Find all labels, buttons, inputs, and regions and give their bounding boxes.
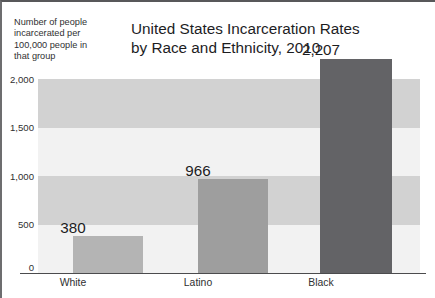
value-label-black: 2,207 <box>261 41 381 58</box>
y-tick-0: 0 <box>0 262 34 273</box>
y-axis-label-line-1: Number of people <box>14 17 122 28</box>
bar-black <box>320 59 392 273</box>
chart-figure: Number of people incarcerated per 100,00… <box>0 0 435 298</box>
value-label-latino: 966 <box>138 162 258 179</box>
y-axis-label-line-4: that group <box>14 51 122 62</box>
chart-title-line-1: United States Incarceration Rates <box>131 20 381 39</box>
y-tick-2000: 2,000 <box>0 74 34 85</box>
x-tick-white: White <box>13 277 133 288</box>
bar-white <box>73 236 143 273</box>
bar-latino <box>198 179 268 273</box>
y-tick-1000: 1,000 <box>0 171 34 182</box>
value-label-white: 380 <box>13 219 133 236</box>
y-axis-label-line-3: 100,000 people in <box>14 40 122 51</box>
x-axis-line <box>20 273 426 274</box>
y-axis-label: Number of people incarcerated per 100,00… <box>14 17 122 63</box>
y-axis-label-line-2: incarcerated per <box>14 28 122 39</box>
x-tick-black: Black <box>261 277 381 288</box>
x-tick-latino: Latino <box>138 277 258 288</box>
y-tick-1500: 1,500 <box>0 122 34 133</box>
